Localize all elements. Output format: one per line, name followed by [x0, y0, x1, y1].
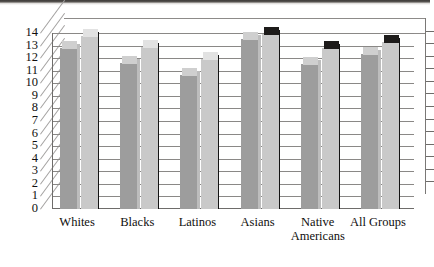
category-label-line: Americans — [288, 229, 348, 243]
x-axis-line — [52, 208, 414, 209]
bar-top-face — [143, 40, 158, 48]
bar-front-face — [201, 59, 218, 209]
right-axis-tick — [425, 131, 434, 132]
y-axis-tick-label: 9 — [10, 89, 38, 101]
gridline — [53, 196, 414, 197]
gridline — [53, 58, 414, 59]
category-label: Latinos — [167, 215, 227, 229]
gridline — [53, 121, 414, 122]
bar — [382, 42, 399, 209]
bar-front-face — [301, 64, 318, 209]
y-axis-labels: 01234567891011121314 — [8, 0, 38, 267]
bar-front-face — [60, 48, 77, 209]
bar-group — [241, 33, 279, 209]
bar-group — [361, 33, 399, 209]
category-label-line: Asians — [241, 215, 275, 229]
bar-top-face — [243, 32, 258, 40]
bar — [180, 75, 197, 210]
gridline — [53, 159, 414, 160]
y-axis-tick-label: 3 — [10, 164, 38, 176]
right-axis-tick — [425, 106, 434, 107]
y-axis-tick-label: 10 — [10, 76, 38, 88]
category-label: Blacks — [107, 215, 167, 229]
gridline — [53, 96, 414, 97]
bar-front-face — [262, 34, 279, 209]
right-axis-tick — [425, 169, 434, 170]
y-axis-tick-label: 0 — [10, 202, 38, 214]
bar-top-face — [303, 57, 318, 65]
bar — [81, 36, 98, 209]
category-label: NativeAmericans — [288, 215, 348, 243]
gridline — [53, 184, 414, 185]
bar-front-face — [81, 36, 98, 209]
bar — [141, 47, 158, 209]
bar-group — [301, 33, 339, 209]
bar — [60, 48, 77, 209]
y-axis-tick-label: 4 — [10, 152, 38, 164]
y-axis-tick-label: 14 — [10, 26, 38, 38]
bar — [241, 39, 258, 209]
y-axis-tick-label: 5 — [10, 139, 38, 151]
right-axis-tick — [425, 56, 434, 57]
bar-top-face — [264, 27, 279, 35]
y-axis-tick-label: 11 — [10, 64, 38, 76]
bar-top-face — [83, 29, 98, 37]
y-axis-tick-label: 12 — [10, 51, 38, 63]
plot-area — [53, 33, 414, 209]
bar — [301, 64, 318, 209]
category-label-line: Latinos — [179, 215, 217, 229]
bar-top-face — [384, 35, 399, 43]
bar — [201, 59, 218, 209]
bar-top-face — [122, 56, 137, 64]
bar-front-face — [141, 47, 158, 209]
bar-top-face — [62, 41, 77, 49]
bar-top-face — [363, 47, 378, 55]
page-top-rule-fade — [0, 3, 430, 5]
category-label: All Groups — [348, 215, 408, 229]
right-axis-tick — [425, 119, 434, 120]
right-axis-tick — [425, 93, 434, 94]
bar-front-face — [361, 54, 378, 209]
bar-top-face — [182, 68, 197, 76]
category-label-line: Native — [301, 215, 334, 229]
bar — [262, 34, 279, 209]
gridline — [53, 171, 414, 172]
bar-group — [120, 33, 158, 209]
y-axis-tick-label: 13 — [10, 39, 38, 51]
bar-group — [60, 33, 98, 209]
bar-top-face — [203, 52, 218, 60]
bar-front-face — [241, 39, 258, 209]
gridline — [53, 71, 414, 72]
category-label-line: All Groups — [350, 215, 406, 229]
bar-front-face — [322, 48, 339, 209]
y-axis-tick-label: 2 — [10, 177, 38, 189]
right-axis-tick — [425, 156, 434, 157]
y-axis-tick-label: 1 — [10, 189, 38, 201]
right-axis-line — [425, 18, 426, 194]
category-label-line: Blacks — [120, 215, 154, 229]
gridline — [53, 134, 414, 135]
bar — [120, 63, 137, 209]
bar-top-face — [324, 41, 339, 49]
bar — [322, 48, 339, 209]
y-axis-tick-label: 7 — [10, 114, 38, 126]
bar-front-face — [382, 42, 399, 209]
y-axis-tick-label: 6 — [10, 127, 38, 139]
gridline — [53, 108, 414, 109]
category-label: Asians — [228, 215, 288, 229]
bar — [361, 54, 378, 209]
gridline — [53, 46, 414, 47]
category-label: Whites — [47, 215, 107, 229]
gridline — [53, 146, 414, 147]
right-axis-tick — [425, 144, 434, 145]
y-axis-tick-label: 8 — [10, 101, 38, 113]
bar-group — [180, 33, 218, 209]
category-label-line: Whites — [59, 215, 94, 229]
right-axis-tick — [425, 181, 434, 182]
right-axis-tick — [425, 31, 434, 32]
bar-front-face — [180, 75, 197, 210]
back-wall-gridline — [64, 18, 426, 19]
gridline — [53, 33, 414, 34]
right-axis-tick — [425, 81, 434, 82]
